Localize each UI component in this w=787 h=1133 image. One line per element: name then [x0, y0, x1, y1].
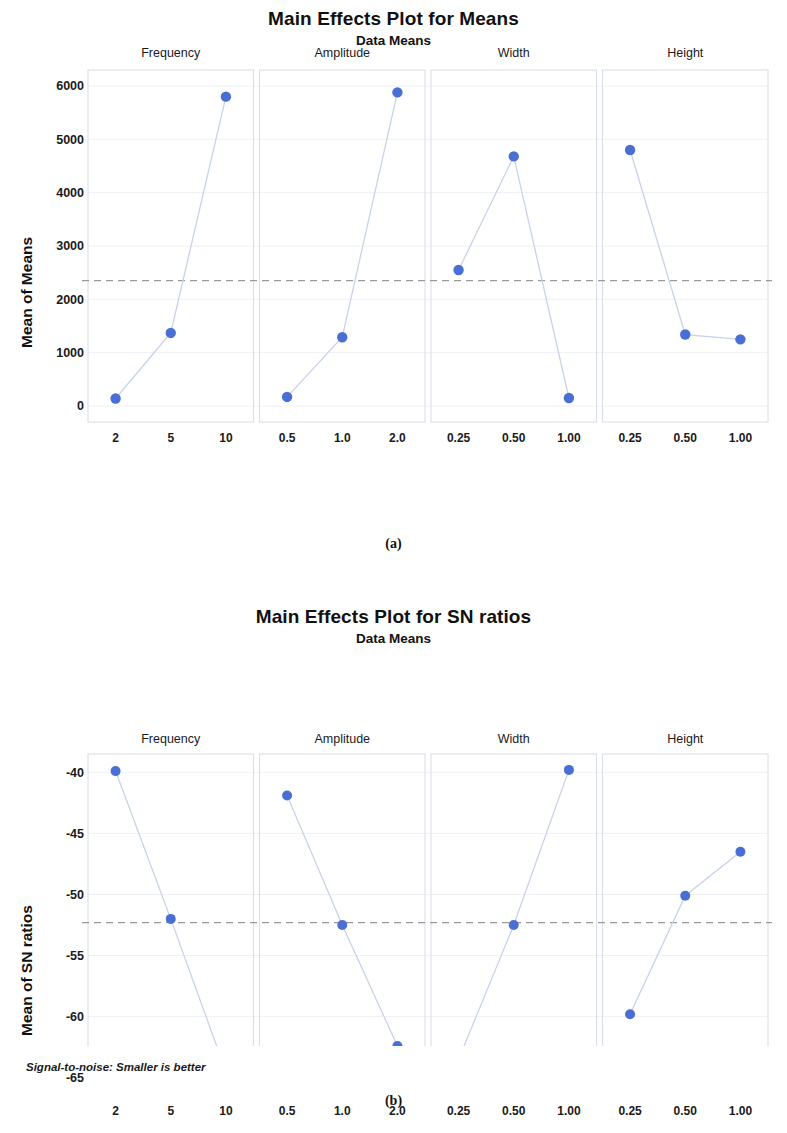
series-line-amplitude	[287, 93, 397, 398]
data-point	[110, 394, 120, 404]
data-point	[680, 891, 690, 901]
x-axis-tick-label: 1.00	[557, 431, 580, 445]
data-point	[221, 92, 231, 102]
panel-header-amplitude: Amplitude	[314, 732, 370, 746]
data-point	[111, 766, 121, 776]
chart-a-plot-area: Mean of Means 0100020003000400050006000F…	[0, 48, 787, 478]
chart-a-title: Main Effects Plot for Means	[0, 0, 787, 30]
data-point	[625, 1010, 635, 1020]
series-line-height	[630, 150, 740, 339]
data-point	[282, 392, 292, 402]
signal-to-noise-note: Signal-to-noise: Smaller is better	[26, 1061, 206, 1073]
panel-header-height: Height	[667, 46, 703, 60]
y-axis-tick-label: 4000	[24, 186, 84, 200]
series-line-frequency	[116, 771, 226, 1046]
panel-frame	[431, 754, 597, 1046]
chart-b-plot-area: Mean of SN ratios -65-60-55-50-45-40Freq…	[0, 646, 787, 1046]
data-point	[509, 920, 519, 930]
y-axis-tick-label: 2000	[24, 293, 84, 307]
x-axis-tick-label: 0.25	[618, 431, 641, 445]
data-point	[392, 1041, 402, 1046]
y-axis-tick-label: -55	[24, 949, 84, 963]
panel-header-frequency: Frequency	[141, 732, 200, 746]
x-axis-tick-label: 0.50	[674, 431, 697, 445]
y-axis-tick-label: -50	[24, 888, 84, 902]
data-point	[735, 847, 745, 857]
x-axis-tick-label: 2.0	[389, 431, 406, 445]
data-point	[282, 791, 292, 801]
y-axis-tick-label: 6000	[24, 79, 84, 93]
y-axis-tick-label: -65	[24, 1071, 84, 1085]
y-axis-tick-label: 1000	[24, 346, 84, 360]
chart-b-subtitle: Data Means	[0, 631, 787, 647]
data-point	[392, 88, 402, 98]
data-point	[680, 330, 690, 340]
x-axis-tick-label: 0.50	[502, 431, 525, 445]
chart-a-canvas	[0, 48, 787, 478]
y-axis-tick-label: 3000	[24, 239, 84, 253]
panel-header-width: Width	[498, 46, 530, 60]
x-axis-tick-label: 1.00	[729, 431, 752, 445]
data-point	[166, 328, 176, 338]
panel-header-height: Height	[667, 732, 703, 746]
x-axis-tick-label: 5	[167, 431, 174, 445]
data-point	[453, 265, 463, 275]
data-point	[564, 765, 574, 775]
y-axis-tick-label: -40	[24, 766, 84, 780]
x-axis-tick-label: 1.0	[334, 431, 351, 445]
data-point	[337, 920, 347, 930]
panel-header-amplitude: Amplitude	[314, 46, 370, 60]
x-axis-tick-label: 0.5	[279, 431, 296, 445]
data-point	[509, 152, 519, 162]
series-line-width	[459, 770, 569, 1046]
chart-b-canvas	[0, 646, 787, 1046]
data-point	[166, 914, 176, 924]
panel-header-frequency: Frequency	[141, 46, 200, 60]
x-axis-tick-label: 2	[112, 431, 119, 445]
data-point	[564, 393, 574, 403]
data-point	[735, 334, 745, 344]
data-point	[337, 332, 347, 342]
y-axis-tick-label: -60	[24, 1010, 84, 1024]
panel-frame	[88, 754, 254, 1046]
chart-b-title: Main Effects Plot for SN ratios	[0, 566, 787, 628]
figure-b-caption: (b)	[0, 1093, 787, 1109]
figure-a-caption: (a)	[0, 536, 787, 552]
y-axis-tick-label: 5000	[24, 133, 84, 147]
data-point	[625, 145, 635, 155]
y-axis-tick-label: -45	[24, 827, 84, 841]
panel-header-width: Width	[498, 732, 530, 746]
figure-b: Main Effects Plot for SN ratios Data Mea…	[0, 566, 787, 1133]
x-axis-tick-label: 10	[219, 431, 232, 445]
series-line-height	[630, 852, 740, 1014]
figure-a: Main Effects Plot for Means Data Means M…	[0, 0, 787, 566]
x-axis-tick-label: 0.25	[447, 431, 470, 445]
y-axis-tick-label: 0	[24, 399, 84, 413]
series-line-frequency	[116, 97, 226, 399]
